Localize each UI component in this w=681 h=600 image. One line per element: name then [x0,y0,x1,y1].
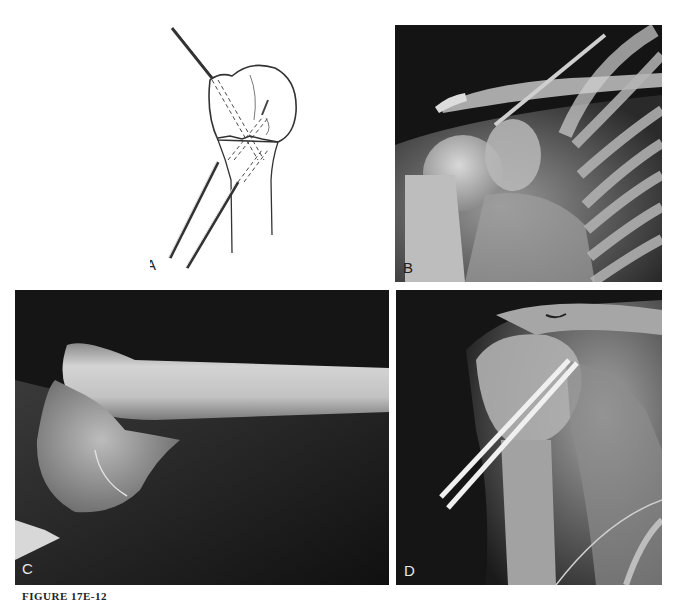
panel-d-radiograph: D [396,290,662,585]
lateral-humerus-xray-c [15,290,389,585]
humerus-pinning-drawing [150,0,385,282]
panel-c-radiograph: C [15,290,389,585]
panel-label-d: D [404,562,415,579]
pinned-shoulder-xray-d [396,290,662,585]
panel-label-c: C [22,560,33,577]
figure-caption: FIGURE 17E-12 [22,590,107,600]
panel-b-radiograph: B [395,25,662,282]
panel-label-b: B [403,259,413,276]
panel-label-a: A [150,256,156,273]
panel-a-illustration: A [150,0,385,282]
shoulder-xray-b [395,25,662,282]
